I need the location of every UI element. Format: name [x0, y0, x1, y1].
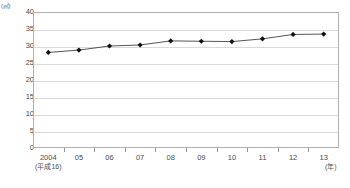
y-axis-tick-label: 25: [14, 59, 34, 67]
y-axis-unit-label: (㎡): [1, 3, 10, 10]
y-axis-tick-label: 15: [14, 93, 34, 101]
y-axis-tick-label: 30: [14, 42, 34, 50]
y-axis-tick-label: 10: [14, 110, 34, 118]
x-axis-tick: [186, 148, 187, 152]
x-axis-tick: [308, 148, 309, 152]
x-axis-tick-label-year: 10: [228, 153, 236, 162]
x-axis-tick: [64, 148, 65, 152]
series-line: [48, 34, 323, 52]
x-axis-tick-label-era: (平成16): [26, 162, 70, 171]
data-point-marker: [168, 38, 173, 43]
series-markers: [46, 32, 327, 56]
x-axis-tick-label-year: 07: [136, 153, 144, 162]
data-point-marker: [76, 47, 81, 52]
data-point-marker: [46, 50, 51, 55]
x-axis-tick: [247, 148, 248, 152]
data-point-marker: [138, 42, 143, 47]
data-point-marker: [260, 36, 265, 41]
data-point-marker: [321, 32, 326, 37]
data-point-marker: [291, 32, 296, 37]
x-axis-tick: [217, 148, 218, 152]
x-axis-tick-label-year: 11: [259, 153, 267, 162]
y-axis-tick-label: 40: [14, 8, 34, 16]
x-axis-tick-label-year: 2004: [40, 153, 57, 162]
line-chart: (㎡) 4035302520151050 2004(平成16)050607080…: [0, 0, 350, 188]
data-point-marker: [107, 43, 112, 48]
x-axis-tick: [155, 148, 156, 152]
x-axis-tick: [125, 148, 126, 152]
x-axis-tick-label-year: 13: [320, 153, 328, 162]
y-axis-tick-label: 0: [14, 144, 34, 152]
y-axis-tick-label: 35: [14, 25, 34, 33]
data-point-marker: [229, 39, 234, 44]
data-series-layer: [33, 12, 339, 148]
x-axis-tick-label: 13: [302, 153, 346, 162]
x-axis-unit-label: (年): [325, 163, 337, 171]
x-axis-tick-label-year: 09: [197, 153, 205, 162]
x-axis-tick: [278, 148, 279, 152]
y-axis-tick-label: 20: [14, 76, 34, 84]
y-axis-tick-label: 5: [14, 127, 34, 135]
x-axis-tick-label-year: 05: [75, 153, 83, 162]
x-axis-tick: [94, 148, 95, 152]
x-axis-tick-label-year: 12: [289, 153, 297, 162]
data-point-marker: [199, 39, 204, 44]
x-axis-tick-label-year: 08: [167, 153, 175, 162]
x-axis-tick-label-year: 06: [105, 153, 113, 162]
